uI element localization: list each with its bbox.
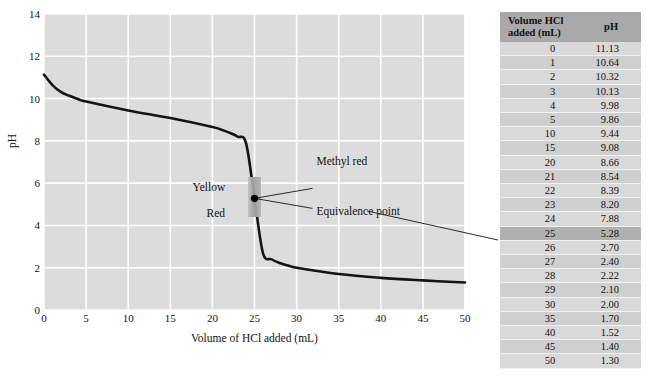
cell-volume: 2: [500, 70, 581, 84]
table-row: 292.10: [500, 283, 641, 297]
table-row: 218.54: [500, 169, 641, 183]
table-row: 59.86: [500, 113, 641, 127]
equivalence-point-label: Equivalence point: [317, 205, 400, 217]
cell-ph: 11.13: [581, 42, 641, 56]
table-row: 110.64: [500, 56, 641, 70]
column-header-ph: pH: [581, 12, 641, 42]
plot-area: Methyl red Equivalence point Yellow Red: [44, 14, 465, 310]
cell-ph: 8.39: [581, 184, 641, 198]
cell-ph: 9.98: [581, 98, 641, 112]
cell-volume: 25: [500, 226, 581, 240]
table-row: 262.70: [500, 240, 641, 254]
x-tick-label: 5: [83, 312, 89, 324]
table-row: 159.08: [500, 141, 641, 155]
cell-volume: 1: [500, 56, 581, 70]
table-row: 255.28: [500, 226, 641, 240]
x-tick-label: 0: [41, 312, 47, 324]
table-row: 247.88: [500, 212, 641, 226]
cell-volume: 27: [500, 255, 581, 269]
table-row: 401.52: [500, 326, 641, 340]
cell-volume: 28: [500, 269, 581, 283]
y-tick-label: 2: [4, 262, 40, 273]
table-body: 011.13110.64210.32310.1349.9859.86109.44…: [500, 42, 641, 368]
cell-ph: 10.32: [581, 70, 641, 84]
x-tick-label: 20: [207, 312, 218, 324]
cell-volume: 26: [500, 240, 581, 254]
cell-ph: 9.08: [581, 141, 641, 155]
y-tick-label: 12: [4, 51, 40, 62]
x-tick-label: 40: [375, 312, 386, 324]
table-row: 208.66: [500, 155, 641, 169]
table-row: 011.13: [500, 42, 641, 56]
table-row: 49.98: [500, 98, 641, 112]
y-axis-ticks: 02468101214: [0, 14, 40, 310]
y-tick-label: 6: [4, 178, 40, 189]
methyl-red-label: Methyl red: [317, 155, 368, 167]
cell-volume: 20: [500, 155, 581, 169]
y-tick-label: 10: [4, 93, 40, 104]
table-row: 302.00: [500, 297, 641, 311]
cell-ph: 2.10: [581, 283, 641, 297]
table-row: 272.40: [500, 255, 641, 269]
column-header-volume-line2: added (mL): [508, 27, 561, 38]
x-tick-label: 10: [123, 312, 134, 324]
cell-ph: 1.30: [581, 354, 641, 368]
cell-volume: 30: [500, 297, 581, 311]
cell-ph: 2.40: [581, 255, 641, 269]
cell-volume: 15: [500, 141, 581, 155]
x-tick-label: 30: [291, 312, 302, 324]
y-tick-label: 0: [4, 305, 40, 316]
x-tick-label: 35: [333, 312, 344, 324]
cell-ph: 10.13: [581, 84, 641, 98]
cell-volume: 35: [500, 311, 581, 325]
cell-volume: 5: [500, 113, 581, 127]
cell-ph: 2.00: [581, 297, 641, 311]
x-axis-ticks: 05101520253035404550: [44, 312, 465, 328]
cell-volume: 21: [500, 169, 581, 183]
cell-volume: 40: [500, 326, 581, 340]
x-tick-label: 15: [165, 312, 176, 324]
ph-data-table: Volume HCl added (mL) pH 011.13110.64210…: [500, 12, 641, 369]
titration-curve-figure: Methyl red Equivalence point Yellow Red …: [0, 0, 480, 377]
cell-volume: 10: [500, 127, 581, 141]
indicator-yellow-label: Yellow: [193, 181, 226, 193]
table-row: 310.13: [500, 84, 641, 98]
table-row: 238.20: [500, 198, 641, 212]
indicator-red-label: Red: [207, 207, 226, 219]
column-header-volume: Volume HCl added (mL): [500, 12, 581, 42]
x-tick-label: 50: [460, 312, 471, 324]
table-head: Volume HCl added (mL) pH: [500, 12, 641, 42]
x-axis-title: Volume of HCl added (mL): [44, 332, 465, 344]
cell-volume: 22: [500, 184, 581, 198]
cell-volume: 23: [500, 198, 581, 212]
x-tick-label: 45: [417, 312, 428, 324]
table-header-row: Volume HCl added (mL) pH: [500, 12, 641, 42]
table-row: 210.32: [500, 70, 641, 84]
cell-volume: 29: [500, 283, 581, 297]
cell-volume: 24: [500, 212, 581, 226]
cell-ph: 2.70: [581, 240, 641, 254]
cell-ph: 5.28: [581, 226, 641, 240]
cell-volume: 4: [500, 98, 581, 112]
table-row: 228.39: [500, 184, 641, 198]
cell-ph: 8.54: [581, 169, 641, 183]
y-axis-title: pH: [6, 134, 18, 148]
cell-ph: 1.40: [581, 340, 641, 354]
cell-ph: 8.20: [581, 198, 641, 212]
cell-volume: 0: [500, 42, 581, 56]
table-row: 109.44: [500, 127, 641, 141]
y-tick-label: 14: [4, 9, 40, 20]
cell-ph: 7.88: [581, 212, 641, 226]
table-row: 282.22: [500, 269, 641, 283]
cell-ph: 9.44: [581, 127, 641, 141]
cell-volume: 3: [500, 84, 581, 98]
table-row: 451.40: [500, 340, 641, 354]
table-row: 501.30: [500, 354, 641, 368]
annotation-leader-lines: [44, 14, 465, 310]
cell-ph: 2.22: [581, 269, 641, 283]
cell-ph: 1.70: [581, 311, 641, 325]
table-row: 351.70: [500, 311, 641, 325]
cell-ph: 1.52: [581, 326, 641, 340]
y-tick-label: 4: [4, 220, 40, 231]
cell-ph: 9.86: [581, 113, 641, 127]
